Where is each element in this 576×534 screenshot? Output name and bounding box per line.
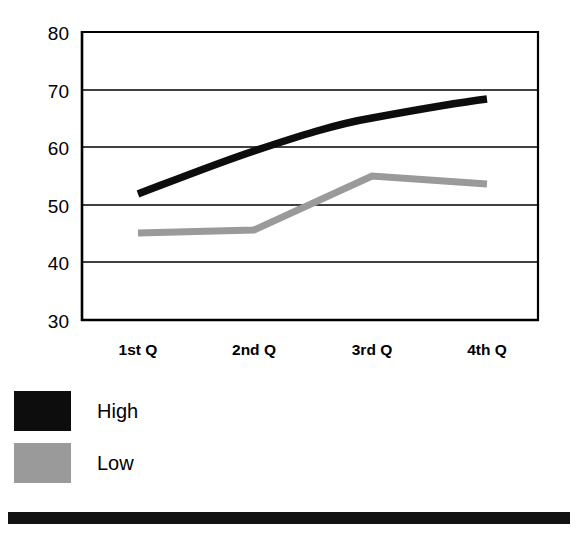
legend-label-high: High	[97, 401, 138, 421]
gray-swatch-icon	[14, 443, 71, 483]
chart-plot-svg: 80 70 60 50 40 30 1st Q 2nd Q 3rd Q 4th …	[0, 0, 576, 375]
black-swatch-icon	[14, 391, 71, 431]
y-axis-tick-labels: 80 70 60 50 40 30	[48, 23, 69, 332]
y-tick-label: 50	[48, 196, 69, 217]
legend-item-low: Low	[14, 440, 314, 486]
footer-rule-bar	[8, 512, 570, 524]
y-tick-label: 80	[48, 23, 69, 44]
legend-label-low: Low	[97, 453, 134, 473]
y-tick-label: 70	[48, 81, 69, 102]
line-chart: 80 70 60 50 40 30 1st Q 2nd Q 3rd Q 4th …	[0, 0, 576, 534]
x-tick-label: 4th Q	[467, 341, 507, 358]
x-tick-label: 3rd Q	[352, 341, 392, 358]
plot-axes	[81, 31, 539, 321]
legend-item-high: High	[14, 388, 314, 434]
plot-gridlines	[81, 32, 539, 262]
y-tick-label: 60	[48, 138, 69, 159]
x-tick-label: 1st Q	[119, 341, 158, 358]
chart-legend: High Low	[14, 388, 314, 486]
y-tick-label: 40	[48, 253, 69, 274]
y-tick-label: 30	[48, 311, 69, 332]
x-tick-label: 2nd Q	[232, 341, 276, 358]
x-axis-tick-labels: 1st Q 2nd Q 3rd Q 4th Q	[119, 341, 507, 358]
